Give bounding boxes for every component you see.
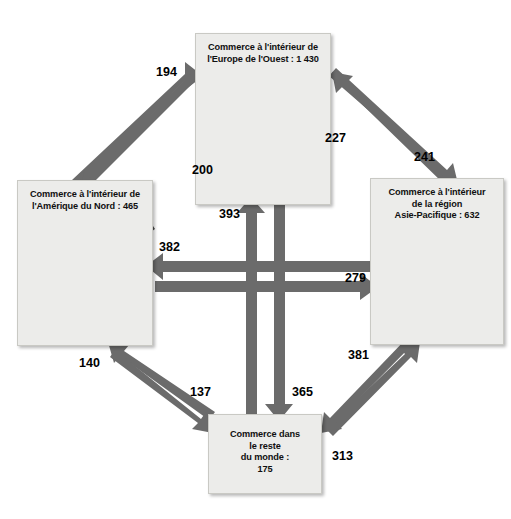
flow-label-ap-to-eu: 227	[325, 131, 346, 145]
flow-label-ap-to-row: 313	[332, 449, 353, 463]
flow-label-na-to-ap: 279	[345, 271, 366, 285]
node-north-america-title: Commerce à l'intérieur de l'Amérique du …	[18, 181, 152, 212]
node-asia-pacific-title-line2: de la région	[412, 199, 462, 209]
node-rest-of-world[interactable]: Commerce dans le reste du monde : 175	[208, 414, 322, 494]
flow-arrow-eu-to-row	[265, 205, 293, 421]
node-north-america-title-line1: Commerce à l'intérieur de	[30, 189, 140, 199]
flow-label-eu-to-na: 200	[192, 163, 213, 177]
flow-label-eu-to-row: 365	[292, 385, 313, 399]
node-rest-of-world-title: Commerce dans le reste du monde : 175	[209, 415, 321, 475]
node-europe[interactable]: Commerce à l'intérieur de l'Europe de l'…	[195, 33, 331, 205]
node-asia-pacific-title: Commerce à l'intérieur de la région Asie…	[371, 179, 503, 222]
node-europe-title-line2: l'Europe de l'Ouest : 1 430	[207, 54, 318, 64]
flow-arrow-row-to-eu	[237, 197, 265, 418]
node-rest-of-world-title-line1: Commerce dans	[230, 429, 300, 439]
flow-arrow-row-to-ap	[326, 342, 420, 436]
flow-label-na-to-eu: 194	[156, 65, 177, 79]
flow-arrow-ap-to-na	[146, 253, 372, 280]
flow-arrow-eu-to-ap	[329, 68, 458, 184]
flow-label-ap-to-na: 382	[159, 240, 180, 254]
node-europe-title-line1: Commerce à l'intérieur de	[208, 42, 318, 52]
node-europe-title: Commerce à l'intérieur de l'Europe de l'…	[196, 34, 330, 65]
flow-label-eu-to-ap: 241	[414, 150, 435, 164]
node-rest-of-world-title-line2: le reste	[249, 441, 280, 451]
node-north-america[interactable]: Commerce à l'intérieur de l'Amérique du …	[17, 180, 153, 346]
flow-label-row-to-na: 140	[79, 356, 100, 370]
node-asia-pacific[interactable]: Commerce à l'intérieur de la région Asie…	[370, 178, 504, 345]
node-rest-of-world-title-line4: 175	[257, 464, 272, 474]
flow-arrow-eu-to-na	[80, 74, 196, 193]
node-north-america-title-line2: l'Amérique du Nord : 465	[32, 201, 138, 211]
diagram-canvas: .arw{fill:#6b6b6b;}	[0, 0, 511, 519]
flow-label-na-to-row: 137	[190, 385, 211, 399]
node-rest-of-world-title-line3: du monde :	[241, 452, 290, 462]
node-asia-pacific-title-line1: Commerce à l'intérieur	[388, 187, 485, 197]
flow-arrow-row-to-na	[108, 342, 215, 420]
flow-arrow-na-to-eu	[72, 62, 203, 186]
node-asia-pacific-title-line3: Asie-Pacifique : 632	[395, 210, 480, 220]
flow-label-row-to-eu: 393	[219, 207, 240, 221]
flow-label-row-to-ap: 381	[348, 348, 369, 362]
